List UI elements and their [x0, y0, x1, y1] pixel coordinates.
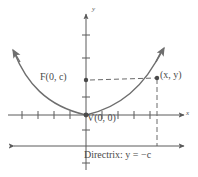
- directrix-label: Directrix: y = −c: [84, 150, 151, 160]
- y-axis-label: y: [92, 6, 95, 13]
- curve-point-marker: [155, 76, 159, 80]
- axes-group: [8, 14, 184, 170]
- curve-point-label: (x, y): [160, 70, 182, 80]
- focus-point-marker: [84, 78, 88, 82]
- parabola-right-arrow: [156, 48, 164, 62]
- vertex-label: V(0, 0): [87, 113, 116, 123]
- parabola-figure: F(0, c) V(0, 0) (x, y) Directrix: y = −c…: [0, 0, 198, 177]
- x-axis-label: x: [186, 110, 189, 117]
- focal-radius-dashed-line: [90, 78, 156, 80]
- focus-label: F(0, c): [40, 72, 67, 82]
- parabola-left-arrow: [13, 50, 20, 62]
- parabola-curve: [14, 50, 162, 115]
